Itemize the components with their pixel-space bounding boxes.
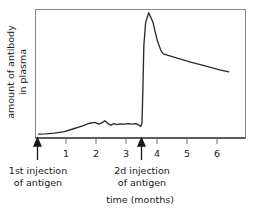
x-tick-label-4: 4	[154, 148, 160, 159]
x-tick-label-5: 5	[184, 148, 190, 159]
plot-frame	[36, 10, 246, 139]
chart-canvas: 1 2 3 4 5 6 1st injection of antigen 2d …	[0, 0, 258, 209]
first-injection-arrow-head	[34, 138, 41, 146]
antibody-response-chart: 1 2 3 4 5 6 1st injection of antigen 2d …	[0, 0, 258, 209]
y-axis-title: amount of antibody in plasma	[5, 25, 28, 119]
x-tick-label-6: 6	[214, 148, 220, 159]
second-injection-arrow	[138, 138, 145, 160]
y-axis-title-line1: amount of antibody	[5, 25, 16, 119]
x-axis-title: time (months)	[106, 194, 174, 205]
first-injection-arrow	[34, 138, 41, 160]
first-injection-label-line1: 1st injection	[9, 165, 67, 176]
x-tick-label-1: 1	[63, 148, 69, 159]
y-axis-title-line2: in plasma	[17, 49, 28, 95]
x-tick-label-3: 3	[123, 148, 129, 159]
second-injection-label: 2d injection of antigen	[114, 165, 170, 188]
first-injection-label-line2: of antigen	[14, 177, 62, 188]
antibody-curve	[39, 13, 229, 134]
second-injection-label-line2: of antigen	[118, 177, 166, 188]
second-injection-arrow-head	[138, 138, 145, 146]
first-injection-label: 1st injection of antigen	[9, 165, 67, 188]
x-tick-label-2: 2	[93, 148, 99, 159]
second-injection-label-line1: 2d injection	[114, 165, 170, 176]
